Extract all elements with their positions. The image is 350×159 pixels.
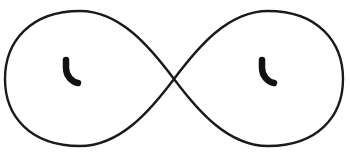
lemniscate-figure (0, 0, 350, 159)
figure-canvas: Infinity symbol with two hook marks (0, 0, 350, 159)
